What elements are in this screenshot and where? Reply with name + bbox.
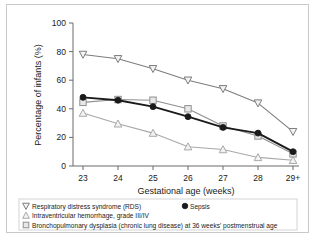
data-point: [150, 104, 156, 110]
legend-label-rds: Respiratory distress syndrome (RDS): [32, 203, 141, 211]
y-tick-label-20: 20: [57, 132, 67, 142]
y-tick-label-0: 0: [61, 161, 66, 171]
x-tick-label-24: 24: [113, 173, 123, 183]
x-tick-label-23: 23: [78, 173, 88, 183]
legend-label-bpd: Bronchopulmonary dysplasia (chronic lung…: [32, 222, 278, 230]
data-point: [79, 109, 87, 116]
y-tick-label-80: 80: [57, 47, 67, 57]
data-point: [219, 86, 227, 93]
series-line: [83, 54, 293, 131]
data-point: [220, 124, 226, 130]
y-tick-label-100: 100: [52, 18, 66, 28]
legend-square-icon: [23, 222, 29, 228]
data-point: [255, 130, 261, 136]
y-tick-label-60: 60: [57, 75, 67, 85]
x-tick-label-26: 26: [183, 173, 193, 183]
x-axis-title: Gestational age (weeks): [137, 186, 234, 196]
series-layer: [79, 51, 297, 163]
y-axis-title: Percentage of infants (%): [33, 44, 43, 146]
line-chart: 0 20 40 60 80 100 23 24 25 26 27 28: [0, 0, 315, 241]
data-point: [289, 128, 297, 135]
data-point: [185, 114, 191, 120]
plot-wrapper: 0 20 40 60 80 100 23 24 25 26 27 28: [0, 0, 315, 241]
x-tick-label-29plus: 29+: [286, 173, 300, 183]
legend-label-ivh: Intraventricular hemorrhage, grade III/I…: [32, 212, 150, 220]
x-tick-label-25: 25: [148, 173, 158, 183]
legend-circle-filled-icon: [182, 203, 188, 209]
data-point: [115, 97, 121, 103]
y-tick-label-40: 40: [57, 104, 67, 114]
legend-label-sepsis: Sepsis: [190, 203, 210, 211]
data-point: [290, 149, 296, 155]
x-tick-marks: [83, 166, 293, 170]
x-tick-label-27: 27: [218, 173, 228, 183]
data-point: [150, 97, 156, 103]
data-point: [80, 94, 86, 100]
y-tick-marks: [69, 23, 73, 166]
figure-container: 0 20 40 60 80 100 23 24 25 26 27 28: [0, 0, 315, 241]
series-triangle-down: [79, 51, 297, 135]
x-tick-label-28: 28: [253, 173, 263, 183]
data-point: [185, 106, 191, 112]
